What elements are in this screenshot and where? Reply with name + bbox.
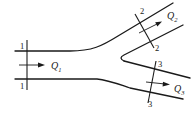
flow-q1: Q1	[19, 60, 61, 73]
main-pipe-lower-wall	[15, 79, 183, 99]
section-1-bottom-label: 1	[20, 81, 24, 91]
section-3-bottom-label: 3	[148, 99, 152, 109]
main-pipe-upper-wall	[15, 3, 173, 51]
section-1-top-label: 1	[20, 41, 24, 51]
flow-q1-label: Q1	[51, 60, 61, 73]
flow-q2-label: Q2	[167, 10, 178, 23]
section-3-top-label: 3	[158, 59, 162, 69]
pipe-junction-diagram: 1 1 2 2 3 3 Q1 Q2 Q3	[0, 0, 192, 126]
flow-q3-label: Q3	[174, 83, 185, 96]
arrow-right-icon	[38, 63, 45, 68]
arrow-up-right-icon	[155, 22, 162, 27]
section-3-3: 3 3	[148, 59, 162, 109]
flow-q3-arrow-shaft	[146, 82, 165, 84]
section-2-bottom-label: 2	[155, 43, 159, 53]
upper-branch-inner-wall	[121, 25, 183, 61]
arrow-right-down-icon	[163, 82, 170, 87]
section-2-top-label: 2	[140, 6, 144, 16]
section-1-1: 1 1	[20, 40, 27, 91]
flow-q2: Q2	[139, 10, 178, 33]
lower-branch-inner-wall	[124, 61, 190, 78]
section-2-line	[135, 14, 154, 48]
